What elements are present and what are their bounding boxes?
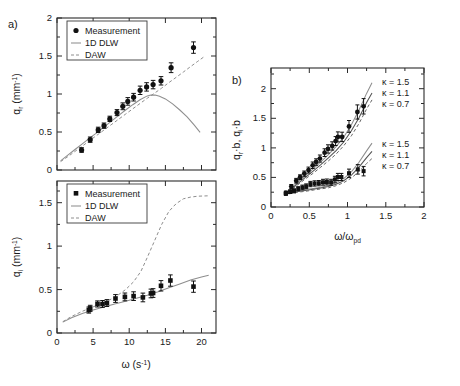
kappa-label-upper-0_7: κ = 0.7 (382, 99, 409, 109)
datapoint (321, 179, 325, 185)
panel-a-label: a) (8, 18, 18, 30)
datapoint (151, 80, 156, 88)
datapoint (107, 116, 112, 121)
datapoint (123, 293, 128, 301)
legend-label-daw: DAW (85, 50, 106, 60)
ytick-0: 0 (261, 201, 266, 212)
legend-label-dlw: 1D DLW (85, 201, 119, 211)
datapoint (294, 178, 299, 183)
datapoint (125, 98, 130, 106)
panel-a-bottom-measurement-series (87, 275, 196, 313)
ytick-2: 2 (261, 83, 266, 94)
datapoint (191, 42, 196, 53)
datapoint (300, 185, 304, 190)
panel-b-kappa-annotations-lower: κ = 1.5 κ = 1.1 κ = 0.7 (382, 139, 409, 171)
xtick-20: 20 (196, 336, 207, 347)
kappa-label-upper-1_5: κ = 1.5 (382, 77, 409, 87)
datapoint (113, 295, 118, 303)
datapoint (88, 305, 93, 311)
panel-a-bottom-xlabel: ω (s-1) (121, 358, 150, 370)
panel-b: 0 0.5 1 1.5 2 0 0 (230, 68, 427, 245)
datapoint (169, 63, 174, 73)
xtick-1: 1 (345, 210, 350, 221)
ylabel-unit-close: ) (10, 73, 22, 77)
datapoint (313, 181, 317, 186)
panel-a-top-curve-dlw (61, 56, 206, 162)
datapoint (308, 181, 312, 186)
xtick-5: 5 (90, 336, 95, 347)
datapoint (144, 83, 149, 91)
datapoint (151, 289, 156, 298)
datapoint (131, 93, 136, 101)
datapoint (284, 192, 288, 196)
panel-a-bottom-xticklabels: 0 5 10 15 20 (54, 336, 206, 347)
panel-a-bottom: 0 0.5 1 1.5 0 5 10 15 20 (10, 181, 216, 370)
ytick-0_5: 0.5 (39, 284, 52, 295)
datapoint (304, 184, 308, 189)
panel-a-bottom-ylabel: qi (mm-1) (10, 237, 24, 278)
svg-text:qr (mm-1): qr (mm-1) (10, 73, 24, 114)
datapoint (191, 281, 196, 292)
ytick-1_5: 1.5 (39, 197, 52, 208)
panel-b-xticklabels: 0 0.5 1 1.5 2 (268, 210, 426, 221)
ytick-0: 0 (47, 327, 52, 338)
svg-text:qr·b, qi·b: qr·b, qi·b (230, 120, 244, 160)
xtick-0_5: 0.5 (303, 210, 316, 221)
panel-a-bottom-legend: Measurement 1D DLW DAW (67, 184, 147, 223)
kappa-label-lower-1_5: κ = 1.5 (382, 139, 409, 149)
kappa-label-upper-1_1: κ = 1.1 (382, 88, 409, 98)
ytick-1: 1 (261, 142, 266, 153)
legend-label-daw: DAW (85, 213, 106, 223)
panel-a-bottom-curve-dlw (63, 275, 209, 322)
datapoint (158, 77, 163, 85)
ytick-1: 1 (47, 88, 52, 99)
xlabel-sub: pd (353, 237, 361, 245)
ytick-0_5: 0.5 (39, 126, 52, 137)
datapoint (296, 187, 300, 191)
datapoint (88, 137, 93, 142)
ytick-0: 0 (47, 164, 52, 175)
panel-a-top-yticklabels: 0 0.5 1 1.5 2 (39, 12, 52, 175)
ytick-2: 2 (47, 12, 52, 23)
panel-b-xlabel: ω/ωpd (334, 230, 361, 245)
legend-square-marker (74, 191, 79, 196)
datapoint (120, 103, 125, 110)
panel-b-kappa-annotations-upper: κ = 1.5 κ = 1.1 κ = 0.7 (382, 77, 409, 109)
datapoint (95, 301, 100, 307)
legend-label-measurement: Measurement (85, 26, 141, 36)
ytick-1_5: 1.5 (253, 112, 266, 123)
datapoint (292, 189, 296, 193)
legend-circle-marker (73, 28, 78, 33)
panel-b-yticklabels: 0 0.5 1 1.5 2 (253, 83, 266, 212)
datapoint (340, 132, 345, 141)
figure-svg: a) 0 0.5 1 (0, 0, 460, 386)
xtick-2: 2 (421, 210, 426, 221)
legend-label-dlw: 1D DLW (85, 38, 119, 48)
ylabel-unit-open: (mm (10, 246, 22, 270)
datapoint (101, 123, 106, 128)
datapoint (79, 147, 84, 152)
xlabel-base: ω/ω (334, 230, 353, 242)
kappa-label-lower-1_1: κ = 1.1 (382, 150, 409, 160)
xlabel-close: ) (147, 358, 151, 370)
xtick-15: 15 (160, 336, 171, 347)
datapoint (298, 175, 303, 180)
legend-label-measurement: Measurement (85, 189, 141, 199)
datapoint (288, 190, 292, 194)
datapoint (168, 275, 173, 286)
xtick-0: 0 (54, 336, 59, 347)
xtick-1_5: 1.5 (379, 210, 392, 221)
xtick-0: 0 (268, 210, 273, 221)
xtick-10: 10 (124, 336, 135, 347)
kappa-label-lower-0_7: κ = 0.7 (382, 161, 409, 171)
ylabel-qi-tail: ·b (230, 120, 242, 129)
xlabel-base: ω (s (121, 358, 141, 370)
datapoint (317, 181, 321, 186)
datapoint (289, 184, 294, 189)
datapoint (141, 293, 146, 302)
ytick-1_5: 1.5 (39, 50, 52, 61)
ylabel-qr-tail: ·b, (230, 137, 242, 152)
panel-a-top-legend: Measurement 1D DLW DAW (67, 21, 147, 60)
figure-container: a) 0 0.5 1 (0, 0, 460, 386)
panel-b-label: b) (232, 74, 242, 86)
